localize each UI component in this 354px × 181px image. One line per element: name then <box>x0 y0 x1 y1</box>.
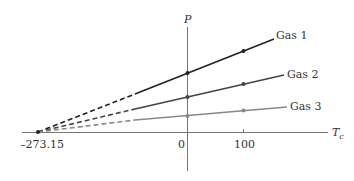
tick-label-100: 100 <box>234 138 255 151</box>
gas3-line <box>135 107 287 120</box>
gas2-point-100 <box>242 82 246 86</box>
chart: P Tc –273.15 0 100 Gas 1 Gas 2 Gas 3 <box>0 0 354 181</box>
gas3-point-0 <box>186 114 190 118</box>
gas1-label: Gas 1 <box>276 29 308 42</box>
gas1-line <box>135 39 274 94</box>
gas3-point-100 <box>242 109 246 113</box>
gas2-point-0 <box>186 95 190 99</box>
gas2-label: Gas 2 <box>287 68 319 81</box>
gas3-label: Gas 3 <box>290 100 322 113</box>
y-axis-label: P <box>183 13 192 26</box>
x-axis-label: Tc <box>332 126 344 141</box>
gas2-line <box>135 75 284 109</box>
gas1-point-100 <box>242 49 246 53</box>
convergence-point <box>36 130 40 134</box>
gas1-point-0 <box>186 71 190 75</box>
tick-label-neg: –273.15 <box>20 138 64 151</box>
gas3-extrapolation <box>38 120 135 132</box>
tick-label-zero: 0 <box>178 138 185 151</box>
